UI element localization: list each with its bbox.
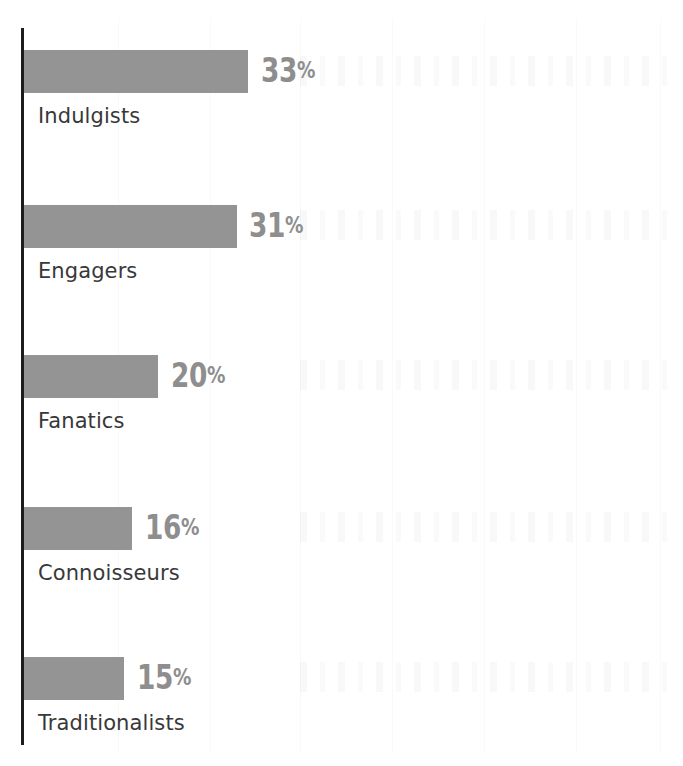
bar-value-connoisseurs: 16% xyxy=(145,506,199,549)
bar-value-traditionalists: 15% xyxy=(137,656,191,699)
bar-connoisseurs xyxy=(24,507,132,550)
bar-chart: 33% Indulgists 31% Engagers 20% Fanatics… xyxy=(0,0,683,766)
percent-sign: % xyxy=(297,57,315,83)
bar-value-number: 31 xyxy=(249,206,285,245)
bar-label-traditionalists: Traditionalists xyxy=(38,709,185,737)
bar-indulgists xyxy=(24,50,248,93)
bar-value-engagers: 31% xyxy=(249,204,303,247)
bar-value-number: 15 xyxy=(137,658,173,697)
bar-label-indulgists: Indulgists xyxy=(38,102,140,130)
bar-value-number: 16 xyxy=(145,508,181,547)
bar-traditionalists xyxy=(24,657,124,700)
bar-value-indulgists: 33% xyxy=(261,49,315,92)
percent-sign: % xyxy=(207,362,225,388)
bar-value-number: 20 xyxy=(171,356,207,395)
bar-label-engagers: Engagers xyxy=(38,257,137,285)
percent-sign: % xyxy=(181,514,199,540)
percent-sign: % xyxy=(173,664,191,690)
bar-fanatics xyxy=(24,355,158,398)
bar-value-number: 33 xyxy=(261,51,297,90)
plot-area: 33% Indulgists 31% Engagers 20% Fanatics… xyxy=(0,0,683,766)
percent-sign: % xyxy=(285,212,303,238)
bar-engagers xyxy=(24,205,237,248)
bar-label-connoisseurs: Connoisseurs xyxy=(38,559,180,587)
bar-label-fanatics: Fanatics xyxy=(38,407,125,435)
bar-value-fanatics: 20% xyxy=(171,354,225,397)
